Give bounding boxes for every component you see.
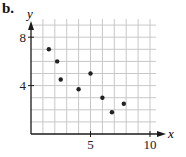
data-point: [59, 77, 63, 81]
x-tick-label: 5: [87, 137, 94, 152]
data-point: [76, 87, 80, 91]
grid-lines: [31, 19, 156, 134]
data-point: [100, 96, 104, 100]
y-axis-label: y: [25, 6, 33, 21]
data-point: [47, 47, 51, 51]
y-tick-label: 4: [20, 78, 27, 93]
scatter-plot: x y 51048: [0, 0, 186, 157]
x-tick-label: 10: [144, 137, 157, 152]
data-point: [110, 110, 114, 114]
x-axis-arrow-icon: [157, 131, 166, 137]
x-axis-label: x: [167, 126, 174, 141]
data-point: [122, 102, 126, 106]
data-point: [88, 71, 92, 75]
y-tick-label: 8: [20, 30, 27, 45]
data-point: [55, 59, 59, 63]
